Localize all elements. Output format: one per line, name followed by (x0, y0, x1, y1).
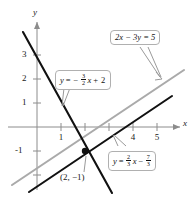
y-tick-2: 2 (22, 74, 27, 83)
leader-gray-label (140, 47, 162, 80)
equation-gray-standard: 2x − 3y = 5 (115, 33, 155, 42)
equation-label-shallow-positive: y = 2 3 x − 7 3 (108, 151, 156, 171)
x-tick-4: 4 (129, 133, 137, 142)
intersection-point-label: (2, −1) (60, 172, 85, 182)
y-tick-1: 1 (22, 98, 27, 107)
fraction-three-halves: 3 2 (81, 73, 86, 87)
y-tick-3: 3 (22, 50, 27, 59)
fraction-seven-thirds: 7 3 (146, 154, 151, 168)
x-tick-1: 1 (57, 133, 65, 142)
leader-point-label (84, 156, 86, 172)
equation-label-gray-standard: 2x − 3y = 5 (110, 30, 160, 45)
y-axis-label: y (33, 8, 37, 17)
x-axis-label: x (183, 119, 187, 128)
x-tick-5: 5 (153, 133, 161, 142)
fraction-two-thirds: 2 3 (126, 154, 131, 168)
y-axis (34, 22, 40, 190)
graph-canvas (0, 0, 196, 197)
equation-label-steep-negative: y = − 3 2 x + 2 (55, 70, 111, 90)
intersection-point (82, 148, 88, 154)
graph-figure: y x 3 2 1 -1 1 4 5 y = − 3 2 x + 2 2x − … (0, 0, 196, 197)
line-shallow-positive (29, 96, 172, 192)
equation-steep-negative: y = − 3 2 x + 2 (60, 73, 106, 87)
y-tick-neg1: -1 (15, 146, 23, 155)
equation-shallow-positive: y = 2 3 x − 7 3 (113, 154, 151, 168)
leader-shallow-label (113, 135, 126, 146)
